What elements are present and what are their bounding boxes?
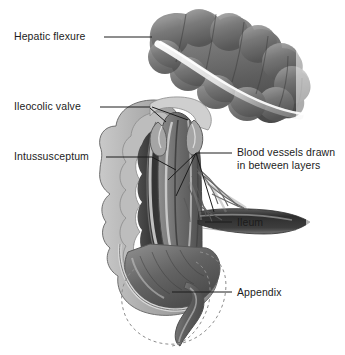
label-appendix: Appendix [237,286,282,299]
leader-blood-vessels-branch-1 [168,153,196,180]
label-intussusceptum: Intussusceptum [14,150,89,163]
leader-blood-vessels-branch-2 [176,153,196,196]
label-ileocolic-valve: Ileocolic valve [14,100,81,113]
label-blood-vessels: Blood vessels drawn in between layers [237,146,345,171]
label-blood-vessels-line-1: Blood vessels drawn [237,146,345,159]
label-blood-vessels-line-2: in between layers [237,159,345,172]
label-hepatic-flexure: Hepatic flexure [14,30,86,43]
leader-lines [0,0,345,355]
leader-intussusceptum-pointer [152,157,176,170]
label-ileum: Ileum [237,216,263,229]
leader-valve-pointer-left [150,108,166,122]
leader-blood-vessels-branch-3 [196,153,214,212]
illustration-canvas: Hepatic flexure Ileocolic valve Intussus… [0,0,345,355]
leader-valve-pointer-right [152,107,188,120]
